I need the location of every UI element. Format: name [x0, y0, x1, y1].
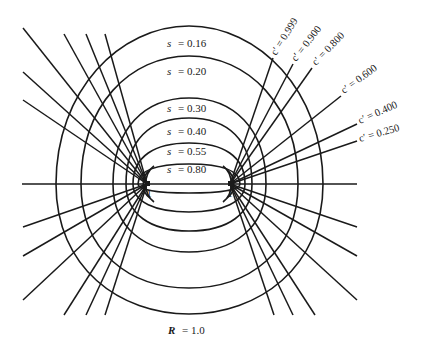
s-label-0.40: s = 0.40 — [167, 125, 207, 137]
c-label-0.250: c′ = 0.250 — [358, 122, 401, 144]
field-line-diagram: −1 1 s = 0.16 s = 0.20 s = 0.30 s = 0.40… — [0, 0, 424, 341]
focus-right-label: 1 — [227, 187, 233, 199]
c-labels: c′ = 0.999 c′ = 0.900 c′ = 0.800 c′ = 0.… — [268, 16, 400, 144]
s-label-0.16: s = 0.16 — [167, 37, 207, 49]
c-lines-right — [230, 58, 357, 315]
s-label-0.20: s = 0.20 — [167, 65, 207, 77]
c-label-0.400: c′ = 0.400 — [356, 99, 399, 126]
focus-right-marker — [228, 181, 233, 186]
s-label-0.30: s = 0.30 — [167, 102, 207, 114]
c-line-0.800 — [230, 68, 312, 184]
focus-left-marker — [145, 181, 150, 186]
focus-left-label: −1 — [140, 187, 152, 199]
c-label-0.600: c′ = 0.600 — [339, 62, 379, 95]
s-label-0.55: s = 0.55 — [167, 145, 207, 157]
figure-caption: R = 1.0 — [167, 324, 205, 336]
s-label-0.80: s = 0.80 — [167, 163, 207, 175]
